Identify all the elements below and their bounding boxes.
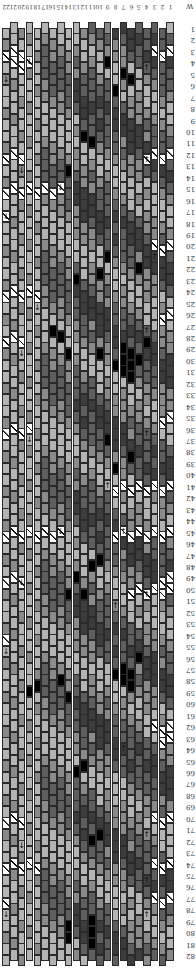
pattern-cell (143, 543, 151, 555)
pattern-cell (34, 62, 42, 74)
pattern-cell (151, 938, 159, 950)
pattern-cell (34, 737, 42, 749)
pattern-cell (2, 474, 10, 486)
pattern-cell (34, 577, 42, 589)
pattern-cell (57, 22, 65, 34)
pattern-cell (143, 245, 151, 257)
pattern-cell (80, 280, 88, 292)
pattern-cell (65, 119, 73, 131)
pattern-cell (112, 119, 120, 131)
pattern-cell (2, 314, 10, 326)
pattern-cell (73, 388, 81, 400)
pattern-cell (10, 503, 18, 515)
pattern-cell (104, 571, 112, 583)
pattern-cell (26, 114, 34, 126)
pattern-cell (49, 669, 57, 681)
pattern-cell (166, 503, 174, 515)
pattern-cell (18, 783, 26, 795)
pattern-cell (2, 165, 10, 177)
pattern-cell (34, 337, 42, 349)
turn-marker-icon (135, 583, 143, 595)
pattern-cell (166, 514, 174, 526)
pattern-cell (135, 102, 143, 114)
arrow-down-icon: ↓ (3, 648, 10, 656)
pattern-cell (10, 480, 18, 492)
pattern-cell (112, 280, 120, 292)
pattern-cell (10, 629, 18, 641)
pattern-cell (49, 703, 57, 715)
pattern-cell (18, 726, 26, 738)
pattern-cell (26, 205, 34, 217)
pattern-cell (120, 652, 128, 664)
pattern-cell (41, 720, 49, 732)
pattern-cell (96, 714, 104, 726)
column-label: 6 (128, 2, 135, 12)
pattern-cell (135, 858, 143, 870)
pattern-cell (127, 142, 135, 154)
pattern-cell (41, 938, 49, 950)
pattern-cell (26, 91, 34, 103)
pattern-cell (65, 371, 73, 383)
pattern-cell (96, 760, 104, 772)
pattern-cell (10, 686, 18, 698)
row-label: 62 (177, 722, 195, 731)
row-label: 16 (177, 196, 195, 205)
pattern-cell (120, 182, 128, 194)
pattern-cell (166, 445, 174, 457)
pattern-cell (120, 331, 128, 343)
row-label: 78 (177, 905, 195, 914)
pattern-cell (166, 468, 174, 480)
pattern-cell (104, 228, 112, 240)
pattern-cell (112, 302, 120, 314)
pattern-cell (26, 411, 34, 423)
row-label: 30 (177, 356, 195, 365)
pattern-cell (2, 806, 10, 818)
pattern-cell (159, 692, 167, 704)
pattern-cell (73, 285, 81, 297)
pattern-cell (88, 400, 96, 412)
row-label: 40 (177, 470, 195, 479)
pattern-cell (26, 606, 34, 618)
pattern-cell (57, 880, 65, 892)
pattern-cell (18, 600, 26, 612)
turn-marker-icon (166, 308, 174, 320)
turn-marker-icon (151, 892, 159, 904)
pattern-cell (18, 852, 26, 864)
pattern-cell (127, 886, 135, 898)
pattern-cell (96, 394, 104, 406)
pattern-cell (65, 783, 73, 795)
pattern-cell (80, 314, 88, 326)
pattern-cell (65, 634, 73, 646)
pattern-cell (159, 371, 167, 383)
pattern-cell (73, 331, 81, 343)
turn-marker-icon (41, 182, 49, 194)
pattern-cell (135, 549, 143, 561)
pattern-cell (120, 823, 128, 835)
pattern-cell (57, 377, 65, 389)
pattern-cell (159, 783, 167, 795)
corner-label: W (186, 2, 193, 10)
pattern-cell (143, 74, 151, 86)
pattern-cell (41, 434, 49, 446)
pattern-cell (80, 245, 88, 257)
pattern-cell (10, 125, 18, 137)
pattern-cell (18, 222, 26, 234)
pattern-cell (10, 114, 18, 126)
pattern-cell (143, 669, 151, 681)
pattern-cell (112, 222, 120, 234)
pattern-cell (143, 703, 151, 715)
pattern-cell (151, 136, 159, 148)
pattern-cell (127, 348, 135, 360)
pattern-cell (57, 560, 65, 572)
pattern-cell (143, 291, 151, 303)
row-label: 53 (177, 619, 195, 628)
row-label: 39 (177, 459, 195, 468)
pattern-cell (112, 28, 120, 40)
turn-marker-icon (159, 417, 167, 429)
pattern-cell (159, 360, 167, 372)
pattern-cell (127, 554, 135, 566)
pattern-cell (112, 371, 120, 383)
pattern-cell (135, 812, 143, 824)
pattern-cell (96, 543, 104, 555)
pattern-cell (73, 45, 81, 57)
